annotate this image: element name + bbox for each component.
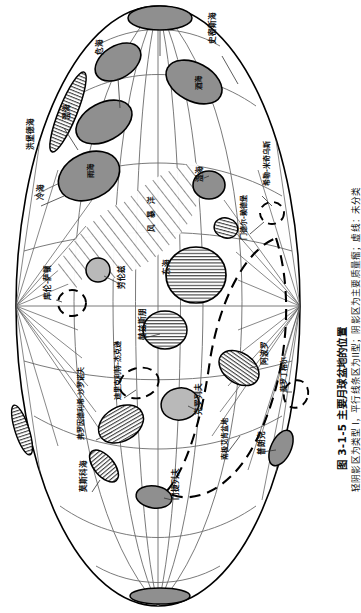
basin-label-serenitatis: 澄海 [63,104,71,120]
basin-label-schiller-zucchius: 希勒-米奇乌斯 [264,141,271,186]
basin-label-nectaris: 酒海 [195,76,202,90]
basin-label-humorum: 湿海 [196,166,204,182]
basin-label-lorentz: 劳伦兹 [118,265,126,289]
basin-label-imbrium: 雨海 [87,164,94,178]
basin-orientale [166,247,226,303]
basin-label-mendeleev: 门捷列夫 [172,468,180,500]
basin-label-frigoris: 冷海 [37,184,45,200]
basin-label-planck: 普朗克 [258,431,266,455]
basin-label-humboldtianum: 洪堡德海 [27,118,35,150]
basin-label-hertzsprung: 赫兹斯朋 [139,308,147,340]
basin-label-korolev: 克罗列夫 [195,383,203,415]
figure-caption-title: 图 3-1-5 主要月球盆地的位置 [337,327,348,470]
basin-hertzsprung [143,311,187,349]
map-graphic [0,0,316,613]
basin-label-apollo: 阿波罗 [261,341,269,365]
basin-label-dirichlet-jackson: 迪里克利特-杰克逊 [115,341,122,400]
basin-label-mendel-rydberg: 门德尔-赖德堡 [241,195,248,240]
figure-caption: 图 3-1-5 主要月球盆地的位置 轻阴影区为类型 I，平行线条区为II型；阴影… [316,0,359,613]
basin-label-procellarum: 风暴洋 [148,190,156,232]
basin-label-south-pole-aitken: 南极艾肯盆地 [222,418,229,460]
basin-label-schrodinger: 薛罗丁格尔 [281,357,288,392]
lunar-basin-map: 洪堡德海 危海 澄海 雨海 冷海 史密斯海 酒海 湿海 门德尔-赖德堡 希勒-米… [0,0,316,613]
basin-label-crisium: 危海 [96,39,104,55]
basin-label-smythii: 史密斯海 [209,12,217,44]
basin-lorentz [86,258,110,282]
basin-label-orientale: 东海 [163,259,171,275]
figure-caption-subtitle: 轻阴影区为类型 I，平行线条区为II型；阴影区为主要质量瘤；虚线：未分类 [352,186,361,492]
basin-label-moscoviense: 莫斯科海 [80,460,88,492]
basin-bottom-mare [130,588,190,604]
basin-label-coulomb-sarton: 库伦-萨顿 [44,265,52,300]
basin-label-freundlich-sharonov: 弗罗因德利希-沙罗诺夫 [78,367,85,440]
basin-top-mare [128,6,192,30]
